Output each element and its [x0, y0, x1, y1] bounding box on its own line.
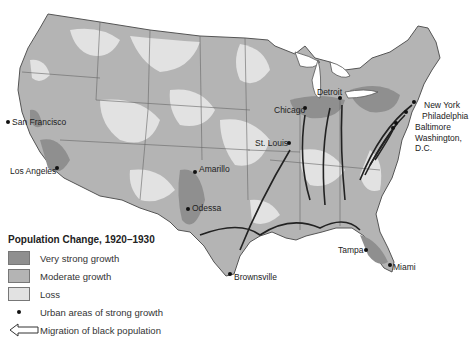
- legend: Population Change, 1920–1930 Very strong…: [8, 234, 238, 339]
- migration-arrow-icon: [8, 323, 40, 337]
- legend-label: Moderate growth: [40, 271, 111, 282]
- legend-label: Loss: [40, 289, 60, 300]
- legend-label: Migration of black population: [40, 325, 161, 336]
- svg-text:Amarillo: Amarillo: [199, 164, 230, 174]
- svg-text:Miami: Miami: [393, 262, 416, 272]
- very-strong-swatch: [8, 251, 30, 265]
- legend-item-migration: Migration of black population: [8, 321, 238, 339]
- legend-item-loss: Loss: [8, 285, 238, 303]
- loss-swatch: [8, 287, 30, 301]
- svg-text:San Francisco: San Francisco: [12, 117, 67, 127]
- legend-item-moderate: Moderate growth: [8, 267, 238, 285]
- svg-text:Chicago: Chicago: [274, 105, 305, 115]
- svg-text:Washington,: Washington,: [415, 133, 462, 143]
- svg-text:D.C.: D.C.: [415, 143, 432, 153]
- legend-item-urban: Urban areas of strong growth: [8, 303, 238, 321]
- legend-item-very-strong: Very strong growth: [8, 249, 238, 267]
- legend-label: Very strong growth: [40, 253, 119, 264]
- svg-text:Brownsville: Brownsville: [234, 272, 277, 282]
- svg-text:Detroit: Detroit: [317, 87, 343, 97]
- legend-label: Urban areas of strong growth: [40, 307, 163, 318]
- moderate-swatch: [8, 269, 30, 283]
- urban-dot-icon: [17, 310, 21, 314]
- svg-text:Philadelphia: Philadelphia: [422, 111, 469, 121]
- svg-text:Los Angeles: Los Angeles: [10, 166, 56, 176]
- svg-text:New York: New York: [424, 100, 461, 110]
- svg-text:Tampa: Tampa: [338, 245, 364, 255]
- svg-text:Odessa: Odessa: [192, 203, 222, 213]
- svg-text:St. Louis: St. Louis: [255, 138, 288, 148]
- svg-text:Baltimore: Baltimore: [415, 122, 451, 132]
- legend-title: Population Change, 1920–1930: [8, 234, 238, 245]
